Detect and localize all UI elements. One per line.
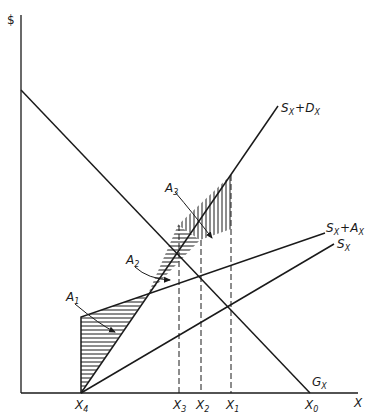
label-gx: GX [312, 375, 327, 391]
tick-x2: X2 [195, 398, 209, 414]
label-a1: A1 [65, 290, 79, 306]
tick-x0: X0 [304, 398, 318, 414]
label-sx-plus-ax: SX+AX [326, 221, 364, 237]
y-axis-label: $ [7, 13, 15, 27]
curve-gx [21, 90, 310, 393]
x-axis-label: X [353, 396, 363, 410]
label-a3: A3 [164, 181, 178, 197]
label-sx-plus-dx: SX+DX [281, 101, 320, 117]
tick-x1: X1 [225, 398, 239, 414]
tick-x3: X3 [172, 398, 186, 414]
label-a2: A2 [125, 253, 139, 269]
economics-diagram: $ X SX+DX SX+AX SX GX A1 A2 A3 X4 X3 X2 … [0, 0, 376, 418]
tick-x4: X4 [74, 398, 88, 414]
curve-sx-plus-dx [81, 106, 278, 393]
label-sx: SX [337, 237, 351, 253]
